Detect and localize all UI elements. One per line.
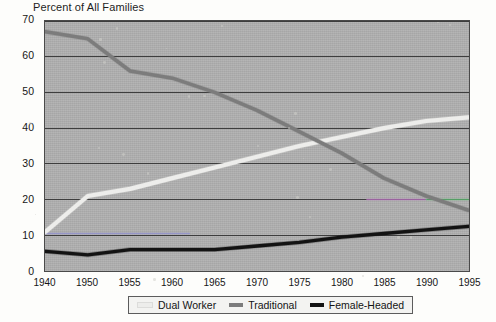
speckle (303, 158, 304, 159)
speckle (35, 214, 36, 215)
speckle (99, 38, 102, 41)
chart-title: Percent of All Families (33, 1, 144, 13)
legend-swatch-icon (229, 303, 243, 307)
speckle (122, 153, 125, 156)
x-tick-1940: 1940 (25, 277, 65, 288)
legend-swatch-icon (310, 303, 324, 307)
x-tick-1965: 1965 (195, 277, 235, 288)
y-tick-0: 0 (4, 265, 34, 277)
speckle (397, 236, 400, 239)
x-tick-1970: 1970 (237, 277, 277, 288)
speckle (153, 278, 156, 281)
speckle (188, 95, 190, 97)
speckle (410, 236, 413, 239)
speckle (29, 122, 32, 125)
legend-item-female-headed[interactable]: Female-Headed (310, 299, 404, 311)
x-tick-1990: 1990 (407, 277, 447, 288)
y-tick-30: 30 (4, 157, 34, 169)
speckle (203, 95, 205, 97)
x-tick-1980: 1980 (322, 277, 362, 288)
speckle (296, 196, 299, 199)
legend-label: Female-Headed (329, 299, 404, 311)
legend-label: Traditional (248, 299, 297, 311)
y-tick-10: 10 (4, 229, 34, 241)
x-tick-1950: 1950 (67, 277, 107, 288)
chart-screenshot: Percent of All Families 010203040506070 … (0, 0, 496, 322)
x-tick-1995: 1995 (450, 277, 490, 288)
legend-item-traditional[interactable]: Traditional (229, 299, 297, 311)
speckle (147, 172, 149, 174)
legend-item-dual-worker[interactable]: Dual Worker (137, 299, 216, 311)
y-tick-70: 70 (4, 13, 34, 25)
x-tick-1955: 1955 (110, 277, 150, 288)
x-tick-1985: 1985 (365, 277, 405, 288)
y-tick-60: 60 (4, 49, 34, 61)
x-tick-1960: 1960 (152, 277, 192, 288)
y-tick-20: 20 (4, 193, 34, 205)
legend-swatch-icon (137, 302, 153, 308)
legend-label: Dual Worker (158, 299, 216, 311)
x-tick-1975: 1975 (280, 277, 320, 288)
speckle (221, 25, 223, 27)
y-tick-50: 50 (4, 85, 34, 97)
chart-legend: Dual WorkerTraditionalFemale-Headed (128, 296, 413, 314)
